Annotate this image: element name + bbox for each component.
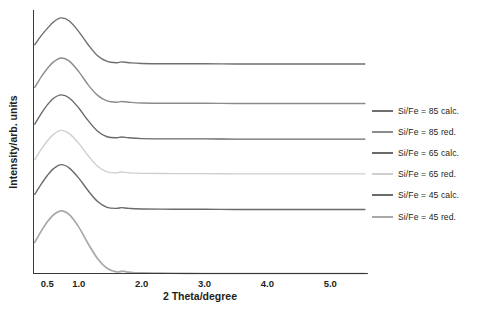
legend-item[interactable]: Si/Fe = 45 red. [372,206,486,227]
legend-item-label: Si/Fe = 65 calc. [398,148,459,158]
legend-line-swatch [372,216,393,218]
x-axis-title: 2 Theta/degree [163,290,237,302]
legend-item[interactable]: Si/Fe = 85 red. [372,121,486,142]
legend-item[interactable]: Si/Fe = 65 red. [372,164,486,185]
x-tick-label: 0.5 [41,278,55,289]
curve-series [35,130,365,174]
curve-series [35,211,365,274]
legend-item-label: Si/Fe = 45 calc. [398,190,459,200]
legend-item[interactable]: Si/Fe = 65 calc. [372,142,486,163]
chart-legend: Si/Fe = 85 calc.Si/Fe = 85 red.Si/Fe = 6… [372,100,486,227]
legend-line-swatch [372,110,393,112]
x-tick-label: 2.0 [135,278,148,289]
curve-series [35,58,365,104]
curve-series [35,165,365,210]
legend-item-label: Si/Fe = 85 calc. [398,106,459,116]
x-tick-label: 3.0 [198,278,211,289]
legend-line-swatch [372,131,393,133]
legend-item[interactable]: Si/Fe = 45 calc. [372,185,486,206]
y-axis-title: Intensity/arb. units [7,95,19,189]
curve-series [35,18,365,64]
x-tick-labels: 0.51.02.03.04.05.0 [41,278,337,289]
curve-series-group [35,18,365,274]
legend-item-label: Si/Fe = 85 red. [398,127,456,137]
x-tick-label: 1.0 [72,278,85,289]
legend-line-swatch [372,173,393,175]
legend-item[interactable]: Si/Fe = 85 calc. [372,100,486,121]
chart-figure: 0.51.02.03.04.05.0 2 Theta/degree Intens… [0,0,486,320]
curve-series [35,95,365,139]
x-tick-label: 4.0 [261,278,274,289]
x-tick-label: 5.0 [324,278,337,289]
legend-line-swatch [372,152,393,154]
legend-item-label: Si/Fe = 65 red. [398,169,456,179]
legend-line-swatch [372,194,393,196]
legend-item-label: Si/Fe = 45 red. [398,212,456,222]
